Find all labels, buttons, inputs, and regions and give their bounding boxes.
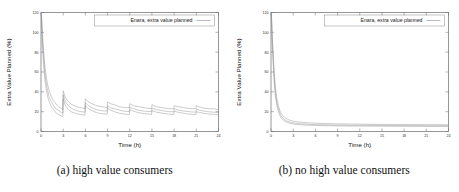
plot-panel-a: 02040608010012003691215182124Time (h)Ext… (0, 0, 230, 158)
data-curve-3 (271, 14, 448, 126)
x-tick-label-3: 9 (107, 134, 109, 138)
plot-frame (271, 13, 449, 132)
x-tick-label-7: 21 (424, 134, 428, 138)
x-tick-label-1: 3 (62, 134, 64, 138)
x-tick-label-3: 9 (336, 134, 338, 138)
x-tick-label-8: 24 (446, 134, 450, 138)
x-tick-label-5: 15 (379, 134, 383, 138)
y-tick-label-3: 60 (264, 70, 268, 74)
y-tick-label-1: 20 (264, 110, 268, 114)
data-curve-3 (41, 16, 218, 116)
plot-panel-b: 02040608010012003691215182124Time (h)Ext… (230, 0, 459, 158)
y-tick-label-5: 100 (33, 31, 39, 35)
x-axis-title: Time (h) (348, 141, 371, 148)
x-tick-label-2: 6 (314, 134, 316, 138)
y-tick-label-0: 0 (37, 130, 39, 134)
y-tick-label-5: 100 (262, 31, 268, 35)
plot-frame (41, 13, 219, 132)
figure-captions-row: (a) high value consumers (b) no high val… (0, 158, 459, 192)
y-tick-label-1: 20 (35, 110, 39, 114)
y-tick-label-6: 120 (262, 11, 268, 15)
x-tick-label-4: 12 (357, 134, 361, 138)
caption-panel-b: (b) no high value consumers (230, 158, 459, 192)
data-curve-2 (271, 13, 448, 125)
figure-two-panel-plots: 02040608010012003691215182124Time (h)Ext… (0, 0, 459, 192)
chart-a-svg: 02040608010012003691215182124Time (h)Ext… (0, 0, 230, 158)
y-tick-label-4: 80 (35, 51, 39, 55)
y-axis-title: Extra Value Planned (%) (5, 38, 12, 105)
y-tick-label-4: 80 (264, 51, 268, 55)
y-tick-label-2: 40 (35, 90, 39, 94)
x-tick-label-7: 21 (194, 134, 198, 138)
x-tick-label-0: 0 (270, 134, 272, 138)
x-tick-label-6: 18 (172, 134, 176, 138)
y-tick-label-6: 120 (33, 11, 39, 15)
y-tick-label-3: 60 (35, 70, 39, 74)
caption-panel-a: (a) high value consumers (0, 158, 230, 192)
y-axis-title: Extra Value Planned (%) (235, 38, 242, 105)
x-tick-label-4: 12 (128, 134, 132, 138)
legend-label: Enara, extra value planned (360, 17, 422, 23)
x-tick-label-1: 3 (292, 134, 294, 138)
data-curve-1 (271, 13, 448, 125)
x-tick-label-2: 6 (84, 134, 86, 138)
chart-b-svg: 02040608010012003691215182124Time (h)Ext… (230, 0, 459, 158)
x-tick-label-8: 24 (217, 134, 221, 138)
data-curve-1 (41, 13, 218, 110)
x-tick-label-0: 0 (40, 134, 42, 138)
y-tick-label-0: 0 (266, 130, 268, 134)
x-axis-title: Time (h) (118, 141, 141, 148)
legend-label: Enara, extra value planned (130, 17, 192, 23)
plot-panels-row: 02040608010012003691215182124Time (h)Ext… (0, 0, 459, 158)
y-tick-label-2: 40 (264, 90, 268, 94)
x-tick-label-6: 18 (402, 134, 406, 138)
data-curve-2 (41, 14, 218, 113)
x-tick-label-5: 15 (150, 134, 154, 138)
